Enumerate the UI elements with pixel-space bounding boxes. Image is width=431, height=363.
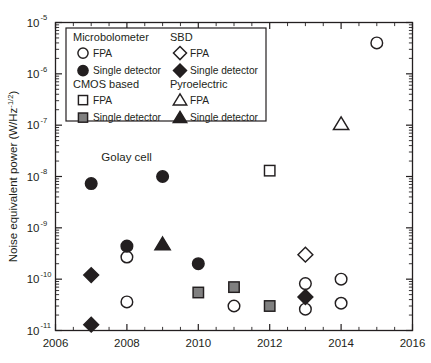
legend-item-label: FPA	[93, 95, 112, 106]
data-point-square-grey	[264, 301, 274, 311]
y-tick-label: 10	[27, 119, 40, 131]
legend-group-heading: SBD	[170, 31, 193, 43]
y-tick-label: 10	[27, 273, 40, 285]
chart-container: 20062008201020122014201610-510-610-710-8…	[0, 0, 431, 363]
y-tick-label-exponent: -9	[41, 219, 48, 228]
series-1	[85, 171, 204, 270]
series-4	[298, 247, 313, 262]
y-axis-title: Noise equivalent power (W/Hz-1/2)	[6, 91, 19, 263]
y-tick-label-exponent: -6	[41, 65, 48, 74]
data-point-circle-open	[335, 297, 347, 309]
data-point-circle-filled	[157, 171, 169, 183]
legend-group-heading: CMOS based	[73, 78, 139, 90]
legend-item-label: FPA	[190, 95, 209, 106]
series-5	[84, 268, 313, 332]
data-point-circle-open	[300, 278, 312, 290]
x-tick-label: 2012	[257, 337, 283, 349]
series-6	[333, 117, 348, 130]
y-tick-label: 10	[27, 68, 40, 80]
y-tick-label: 10	[27, 171, 40, 183]
data-point-diamond-open	[298, 247, 313, 262]
legend-marker-circle-filled	[78, 66, 88, 76]
data-point-circle-filled	[193, 258, 205, 270]
data-point-diamond-filled	[298, 290, 313, 305]
legend-marker-square-grey	[78, 113, 87, 122]
data-point-circle-open	[121, 296, 133, 308]
data-point-square-open	[264, 165, 274, 175]
y-tick-label-exponent: -5	[41, 13, 48, 22]
data-point-square-grey	[229, 282, 239, 292]
legend-marker-circle-open	[78, 48, 88, 58]
legend: MicrobolometerFPASingle detectorSBDFPASi…	[66, 28, 266, 123]
legend-marker-square-open	[78, 96, 87, 105]
data-point-circle-open	[371, 37, 383, 49]
y-tick-label: 10	[27, 325, 40, 337]
y-tick-label: 10	[27, 222, 40, 234]
data-point-diamond-filled	[84, 268, 99, 283]
data-point-diamond-filled	[84, 317, 99, 332]
legend-item-label: Single detector	[190, 112, 259, 123]
series-2	[264, 165, 274, 175]
legend-item-label: Single detector	[190, 65, 259, 76]
data-point-circle-open	[228, 300, 240, 312]
y-axis-title-text: Noise equivalent power (W/Hz-1/2)	[6, 91, 19, 263]
x-tick-label: 2008	[114, 337, 140, 349]
noise-equivalent-power-scatter-chart: 20062008201020122014201610-510-610-710-8…	[0, 0, 431, 363]
y-tick-label: 10	[27, 17, 40, 29]
legend-group-heading: Microbolometer	[73, 31, 149, 43]
data-point-triangle-filled	[155, 237, 170, 250]
y-tick-label-exponent: -11	[41, 321, 51, 330]
annotations-group: Golay cell	[101, 151, 152, 163]
x-tick-label: 2016	[400, 337, 426, 349]
annotation-label: Golay cell	[101, 151, 152, 163]
x-tick-label: 2014	[328, 337, 354, 349]
legend-item-label: Single detector	[93, 65, 162, 76]
data-point-circle-open	[335, 273, 347, 285]
legend-group-heading: Pyroelectric	[170, 78, 228, 90]
y-tick-label-exponent: -10	[41, 270, 52, 279]
x-tick-label: 2010	[186, 337, 212, 349]
data-point-circle-open	[121, 251, 133, 263]
legend-item-label: FPA	[190, 48, 209, 59]
y-tick-label-exponent: -8	[41, 167, 48, 176]
legend-item-label: Single detector	[93, 112, 162, 123]
series-7	[155, 237, 170, 250]
y-axis-title-group: Noise equivalent power (W/Hz-1/2)	[6, 91, 19, 263]
data-point-square-grey	[193, 287, 203, 297]
data-point-circle-filled	[121, 240, 133, 252]
data-point-triangle-open	[333, 117, 348, 130]
legend-item-label: FPA	[93, 48, 112, 59]
data-point-circle-filled	[85, 178, 97, 190]
y-tick-label-exponent: -7	[41, 116, 48, 125]
x-tick-label: 2006	[43, 337, 69, 349]
